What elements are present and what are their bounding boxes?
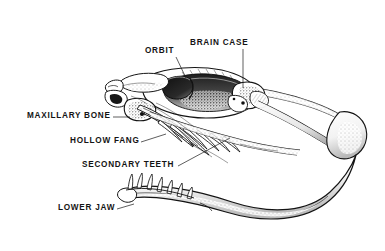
label-secondary-teeth: SECONDARY TEETH (82, 161, 174, 169)
label-brain-case: BRAIN CASE (190, 39, 248, 47)
label-orbit: ORBIT (145, 47, 174, 55)
leader-line-lower-jaw (117, 204, 134, 209)
leader-line-secondary-teeth (178, 138, 230, 166)
label-lower-jaw: LOWER JAW (58, 204, 115, 212)
label-hollow-fang: HOLLOW FANG (70, 137, 140, 145)
diagram-canvas: ORBIT BRAIN CASE MAXILLARY BONE HOLLOW F… (0, 0, 385, 251)
leader-line-hollow-fang (141, 134, 166, 142)
leader-line-orbit (176, 57, 186, 78)
label-maxillary-bone: MAXILLARY BONE (27, 112, 111, 120)
